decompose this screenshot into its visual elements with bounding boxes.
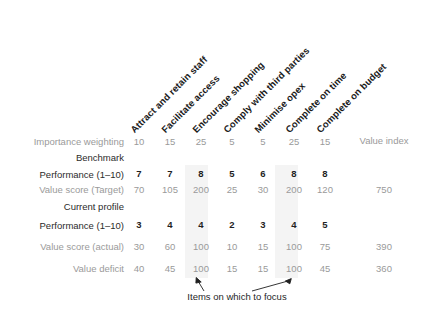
cell-importance-5: 25: [279, 136, 309, 147]
cell-value-score-actual-4: 15: [248, 241, 278, 252]
cell-value-score-actual-1: 60: [155, 241, 185, 252]
row-label-value-deficit: Value deficit: [73, 263, 124, 274]
cell-value-score-target-6: 120: [310, 184, 340, 195]
arrow-line-right: [252, 281, 288, 291]
cell-current-performance-6: 5: [310, 219, 340, 230]
cell-value-score-target-1: 105: [155, 184, 185, 195]
row-label-current-performance: Performance (1–10): [40, 220, 124, 231]
cell-value-score-target-4: 30: [248, 184, 278, 195]
row-label-current-profile: Current profile: [64, 201, 124, 212]
cell-importance-0: 10: [124, 136, 154, 147]
cell-importance-2: 25: [186, 136, 216, 147]
cell-value-deficit-2: 100: [186, 263, 216, 274]
cell-value-score-target-3: 25: [217, 184, 247, 195]
cell-value-score-target-2: 200: [186, 184, 216, 195]
cell-current-performance-5: 4: [279, 219, 309, 230]
index-value-target: 750: [344, 184, 424, 195]
cell-value-score-target-5: 200: [279, 184, 309, 195]
arrow-head-right: [285, 279, 291, 284]
cell-benchmark-performance-5: 8: [279, 168, 309, 179]
cell-value-score-actual-2: 100: [186, 241, 216, 252]
row-label-value-score-actual: Value score (actual): [40, 241, 124, 252]
row-label-column: Importance weighting Benchmark Performan…: [0, 0, 124, 311]
cell-current-performance-4: 3: [248, 219, 278, 230]
cell-value-score-actual-0: 30: [124, 241, 154, 252]
cell-current-performance-2: 4: [186, 219, 216, 230]
cell-value-deficit-3: 15: [217, 263, 247, 274]
cell-benchmark-performance-3: 5: [217, 168, 247, 179]
value-deficit-table: Attract and retain staff Facilitate acce…: [0, 0, 434, 311]
arrow-head-left: [196, 278, 201, 284]
cell-importance-1: 15: [155, 136, 185, 147]
cell-value-score-target-0: 70: [124, 184, 154, 195]
index-value-actual: 390: [344, 241, 424, 252]
row-label-benchmark: Benchmark: [76, 152, 124, 163]
cell-importance-6: 15: [310, 136, 340, 147]
cell-benchmark-performance-2: 8: [186, 168, 216, 179]
arrow-line-left: [198, 281, 204, 291]
cell-benchmark-performance-1: 7: [155, 168, 185, 179]
cell-value-deficit-4: 15: [248, 263, 278, 274]
cell-value-deficit-1: 45: [155, 263, 185, 274]
row-label-benchmark-performance: Performance (1–10): [40, 169, 124, 180]
cell-importance-4: 5: [248, 136, 278, 147]
cell-value-deficit-0: 40: [124, 263, 154, 274]
cell-importance-3: 5: [217, 136, 247, 147]
cell-current-performance-1: 4: [155, 219, 185, 230]
cell-current-performance-0: 3: [124, 219, 154, 230]
row-label-importance-weighting: Importance weighting: [34, 136, 124, 147]
cell-benchmark-performance-0: 7: [124, 168, 154, 179]
index-column-header: Value index: [344, 135, 424, 146]
cell-value-score-actual-6: 75: [310, 241, 340, 252]
cell-benchmark-performance-6: 8: [310, 168, 340, 179]
cell-value-deficit-6: 45: [310, 263, 340, 274]
focus-annotation-label: Items on which to focus: [177, 291, 297, 302]
row-label-value-score-target: Value score (Target): [39, 184, 124, 195]
cell-value-score-actual-5: 100: [279, 241, 309, 252]
cell-value-deficit-5: 100: [279, 263, 309, 274]
cell-value-score-actual-3: 10: [217, 241, 247, 252]
cell-benchmark-performance-4: 6: [248, 168, 278, 179]
cell-current-performance-3: 2: [217, 219, 247, 230]
index-value-deficit: 360: [344, 263, 424, 274]
